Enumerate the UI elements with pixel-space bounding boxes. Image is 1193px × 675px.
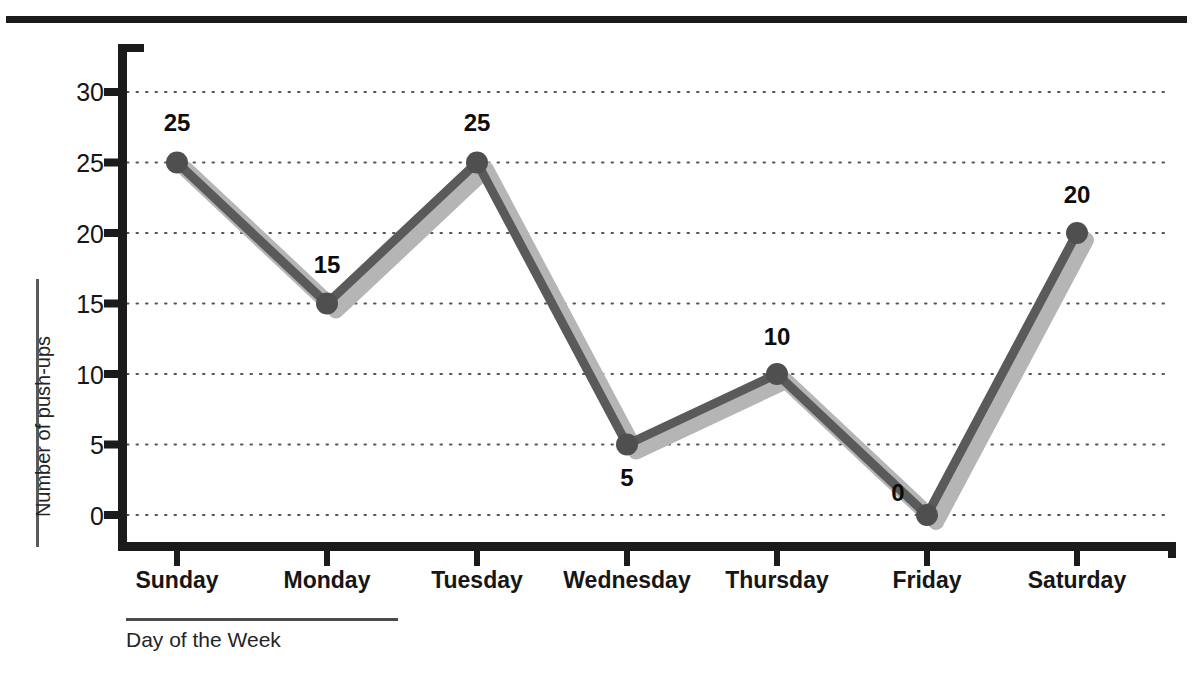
x-tick-label-tuesday: Tuesday	[407, 569, 547, 592]
x-axis-line	[118, 542, 1176, 551]
y-tick-label: 10	[52, 363, 104, 388]
y-axis-top-cap	[118, 44, 144, 52]
y-tick-label: 30	[52, 80, 104, 105]
chart-page: Number of push-ups Day of the Week 30 25…	[0, 0, 1193, 675]
value-label-thursday: 10	[737, 325, 817, 349]
value-label-friday: 0	[858, 481, 938, 505]
x-tick-label-friday: Friday	[857, 569, 997, 592]
y-tick-label: 15	[52, 292, 104, 317]
y-axis-line	[118, 44, 127, 550]
y-tick-label: 20	[52, 222, 104, 247]
series-line	[177, 163, 1077, 516]
data-point-monday	[316, 293, 338, 315]
data-point-thursday	[766, 363, 788, 385]
x-axis-right-cap	[1168, 542, 1176, 558]
data-point-wednesday	[616, 434, 638, 456]
value-label-monday: 15	[287, 253, 367, 277]
value-label-tuesday: 25	[437, 111, 517, 135]
x-tick-label-monday: Monday	[257, 569, 397, 592]
x-tick-label-thursday: Thursday	[707, 569, 847, 592]
value-label-wednesday: 5	[587, 466, 667, 490]
y-tick-label: 5	[52, 433, 104, 458]
data-point-sunday	[166, 152, 188, 174]
value-label-sunday: 25	[137, 111, 217, 135]
x-tick-label-sunday: Sunday	[107, 569, 247, 592]
data-point-saturday	[1066, 222, 1088, 244]
data-point-tuesday	[466, 152, 488, 174]
y-tick-label: 25	[52, 151, 104, 176]
x-tick-marks-group	[174, 549, 1080, 566]
data-point-friday	[916, 504, 938, 526]
value-label-saturday: 20	[1037, 183, 1117, 207]
x-tick-label-wednesday: Wednesday	[557, 569, 697, 592]
x-tick-label-saturday: Saturday	[1007, 569, 1147, 592]
y-tick-label: 0	[52, 504, 104, 529]
